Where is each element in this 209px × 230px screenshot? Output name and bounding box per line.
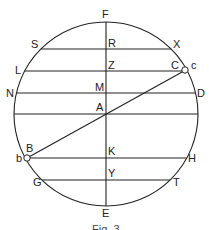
label-Y: Y (108, 167, 116, 179)
circle-diagram: F S R X L Z C c N M D A B b K H G Y T E … (0, 0, 209, 230)
label-X: X (173, 38, 181, 50)
label-T: T (173, 176, 180, 188)
label-D: D (197, 87, 205, 99)
label-S: S (31, 38, 38, 50)
label-K: K (108, 145, 116, 157)
point-c-marker (182, 67, 188, 73)
label-B: B (26, 142, 33, 154)
label-Z: Z (108, 59, 115, 71)
label-c: c (191, 59, 197, 71)
label-A: A (96, 101, 104, 113)
label-L: L (15, 64, 21, 76)
label-E: E (102, 207, 109, 219)
point-b-marker (24, 155, 30, 161)
label-G: G (33, 176, 42, 188)
label-H: H (188, 152, 196, 164)
label-b: b (16, 152, 22, 164)
label-C: C (171, 59, 179, 71)
label-N: N (6, 87, 14, 99)
label-F: F (102, 8, 109, 20)
label-R: R (108, 37, 116, 49)
figure-caption: Fig. 3 (92, 223, 120, 230)
label-M: M (95, 81, 104, 93)
